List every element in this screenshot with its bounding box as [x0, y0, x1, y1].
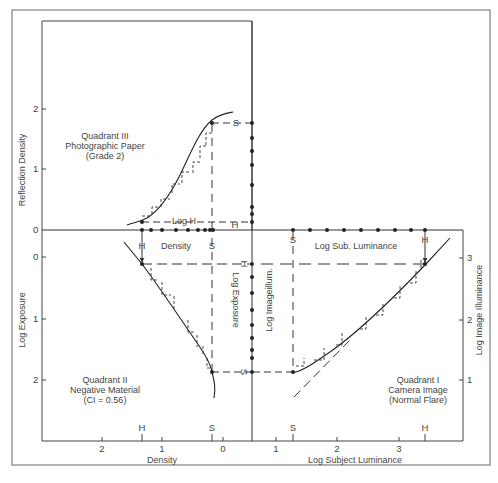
tick-rd-1: 1: [33, 163, 38, 174]
axis-label-log-image-illuminance: Log Image Illuminance: [474, 265, 484, 356]
q3-point-h: [140, 220, 144, 224]
q2-point-s: [210, 370, 214, 374]
q1-point-s: [291, 370, 295, 374]
quadrant-ii-label: Quadrant II Negative Material (CI = 0.56…: [70, 375, 140, 405]
bottom-axis-ticks: [102, 434, 425, 441]
svg-text:Quadrant II: Quadrant II: [82, 375, 127, 385]
axis-label-density-bottom: Density: [147, 455, 178, 465]
axis-label-reflection-density: Reflection Density: [17, 133, 27, 206]
quadrant-i-label: Quadrant I Camera Image (Normal Flare): [388, 375, 448, 405]
q3-h-marker: H: [232, 219, 239, 230]
q3-s-marker: S: [233, 117, 239, 128]
quadrant-ii-curve: [124, 242, 215, 398]
quadrant-iii-label: Quadrant III Photographic Paper (Grade 2…: [65, 131, 145, 161]
q2-h-top-marker: H: [139, 240, 146, 251]
quadrant-iii-frame: [42, 21, 252, 230]
label-log-image-illum-inner: Log Imageillum.: [264, 268, 274, 332]
q1-s-marker: S: [290, 234, 296, 245]
tick-le-2: 2: [33, 374, 38, 385]
marker-s-lsl: S: [290, 422, 296, 433]
q2-s-side-marker: S: [239, 369, 250, 375]
tick-lsl-1: 1: [273, 443, 278, 454]
marker-h-lsl: H: [422, 422, 429, 433]
label-log-sub-luminance: Log Sub. Luminance: [315, 241, 398, 251]
q3-point-s: [210, 121, 214, 125]
tick-lii-2: 2: [467, 314, 472, 325]
tick-lii-1: 1: [467, 374, 472, 385]
marker-s-density: S: [209, 422, 215, 433]
tick-d-1: 1: [159, 443, 164, 454]
tick-le-0: 0: [33, 251, 38, 262]
q2-point-h: [140, 262, 144, 266]
label-log-exposure-inner: Log Exposure: [231, 272, 241, 328]
q2-s-top-marker: S: [209, 240, 215, 251]
tick-lsl-3: 3: [396, 443, 401, 454]
q2-h-side-marker: H: [239, 261, 250, 268]
quadrant-i-steps: [296, 260, 421, 366]
svg-text:Negative Material: Negative Material: [70, 385, 140, 395]
tick-d-0: 0: [220, 443, 225, 454]
tick-lsl-2: 2: [334, 443, 339, 454]
q1-h-marker: H: [422, 234, 429, 245]
axis-label-log-exposure-left: Log Exposure: [17, 292, 27, 348]
svg-text:Photographic Paper: Photographic Paper: [65, 141, 145, 151]
tone-reproduction-diagram: 2 1 0 0 1 2 Reflection Density Log Expos…: [0, 0, 498, 483]
q1-point-h: [423, 262, 427, 266]
quadrant-ii-steps: [151, 268, 212, 368]
svg-text:(CI = 0.56): (CI = 0.56): [84, 395, 127, 405]
tick-d-2: 2: [99, 443, 104, 454]
label-log-h: Log H: [172, 216, 196, 226]
tick-lii-3: 3: [467, 252, 472, 263]
density-dots-row: [140, 228, 215, 232]
tick-rd-0: 0: [33, 224, 38, 235]
svg-text:Quadrant I: Quadrant I: [397, 375, 440, 385]
svg-text:Quadrant III: Quadrant III: [81, 131, 129, 141]
svg-text:Camera Image: Camera Image: [388, 385, 448, 395]
quadrant-iii-curve: [127, 112, 233, 225]
right-axis-ticks: [459, 258, 463, 380]
svg-text:(Normal Flare): (Normal Flare): [389, 395, 447, 405]
tick-rd-2: 2: [33, 103, 38, 114]
svg-text:(Grade 2): (Grade 2): [86, 151, 125, 161]
label-density-inner: Density: [161, 241, 192, 251]
marker-h-density: H: [139, 422, 146, 433]
quadrant-i-no-flare-line: [294, 340, 350, 397]
tick-le-1: 1: [33, 313, 38, 324]
left-axis-ticks: [42, 109, 46, 380]
axis-label-log-subject-luminance: Log Subject Luminance: [308, 455, 402, 465]
quadrant-i-curve: [293, 238, 450, 373]
quadrant-iii-steps: [142, 133, 212, 216]
